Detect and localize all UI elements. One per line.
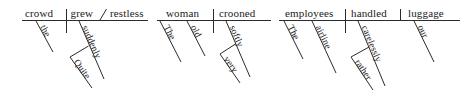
diagram-2: woman crooned The old softly very	[157, 7, 271, 83]
diagram-3: employees handled luggage The airline ca…	[279, 7, 460, 90]
d3-mod-our-word: our	[416, 23, 431, 40]
d3-mod-carelessly-word: carelessly	[360, 24, 384, 63]
d1-mod-quite-connector	[70, 46, 89, 57]
d1-mod-the-word: the	[38, 23, 52, 38]
diagram-1: crowd grew restless the suddenly Quite	[22, 7, 148, 88]
diagrams-svg: crowd grew restless the suddenly Quite w…	[0, 0, 469, 95]
d2-mod-very-word: very	[222, 54, 240, 74]
d1-mod-suddenly-word: suddenly	[80, 24, 103, 60]
d1-verb-word: grew	[71, 7, 94, 19]
d3-mod-rather-connector	[351, 47, 369, 57]
d3-mod-the-word: The	[286, 23, 302, 41]
d2-subject-word: woman	[166, 7, 199, 19]
d2-mod-old-word: old	[189, 23, 204, 39]
d3-mod-airline-word: airline	[314, 24, 334, 51]
d3-complement-word: luggage	[408, 7, 444, 19]
d2-mod-the-word: The	[162, 23, 178, 41]
sentence-diagram-canvas: crowd grew restless the suddenly Quite w…	[0, 0, 469, 95]
d1-subject-word: crowd	[25, 7, 54, 19]
d3-verb-word: handled	[351, 7, 387, 19]
d1-complement-word: restless	[110, 7, 144, 19]
d1-verb-complement-divider	[100, 9, 107, 20]
d3-subject-word: employees	[285, 7, 333, 19]
d1-mod-quite-word: Quite	[72, 57, 93, 80]
d2-verb-word: crooned	[219, 7, 256, 19]
d2-mod-softly-word: softly	[228, 24, 246, 49]
d2-mod-very-connector	[220, 44, 236, 54]
d3-mod-rather-word: rather	[353, 58, 374, 83]
